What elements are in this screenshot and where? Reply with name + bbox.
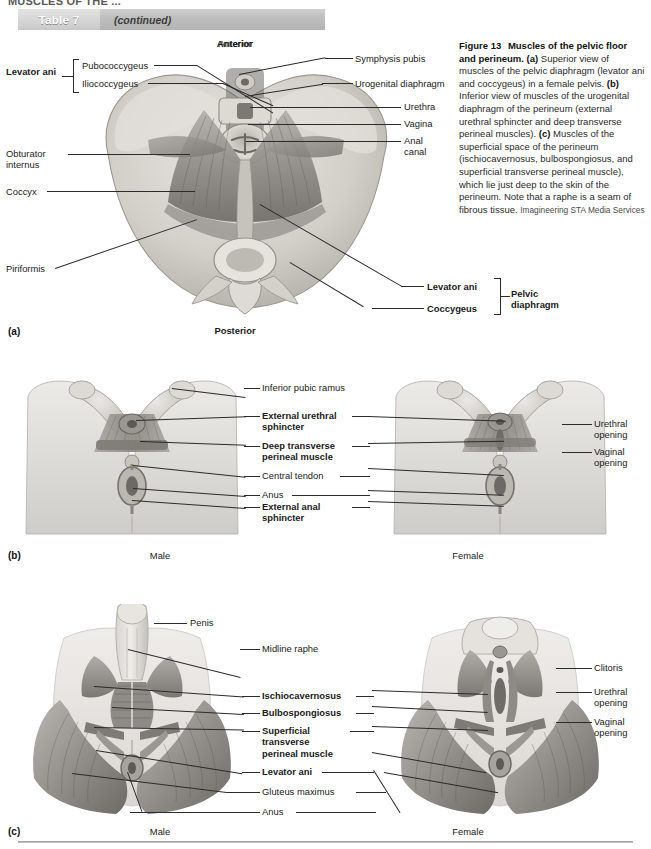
panel-b-female-illustration xyxy=(392,374,608,538)
leader-levator-ani-group xyxy=(62,76,74,77)
label-piriformis: Piriformis xyxy=(6,263,45,274)
leader-dtpm-right xyxy=(352,446,370,447)
leader-levator-ani-pelvic-h xyxy=(401,286,424,287)
label-levator-ani-pelvic: Levator ani xyxy=(427,281,477,292)
leader-anal-canal xyxy=(246,141,401,142)
leader-pubococcygeus-h xyxy=(154,65,197,66)
table-banner-continued: (continued) xyxy=(114,14,171,26)
label-male-c: Male xyxy=(130,826,190,837)
label-inferior-pubic-ramus: Inferior pubic ramus xyxy=(262,382,345,393)
label-gluteus-maximus: Gluteus maximus xyxy=(262,786,334,797)
leader-obturator-internus xyxy=(68,154,190,155)
label-ischiocavernosus: Ischiocavernosus xyxy=(262,690,341,701)
leader-urethral-opening-c xyxy=(556,692,592,693)
label-urogenital-diaphragm: Urogenital diaphragm xyxy=(355,78,445,89)
label-penis: Penis xyxy=(190,617,213,628)
leader-pelvic-diaphragm xyxy=(501,296,510,297)
label-symphysis-pubis: Symphysis pubis xyxy=(355,53,425,64)
leader-levator-ani-c-left xyxy=(242,772,260,773)
label-coccyx: Coccyx xyxy=(6,186,37,197)
leader-anus-c-right xyxy=(296,812,376,813)
figure-caption: Figure 13 Muscles of the pelvic floor an… xyxy=(459,40,645,216)
leader-eus-left xyxy=(244,416,260,417)
panel-letter-b: (b) xyxy=(8,550,21,561)
label-bulbospongiosus: Bulbospongiosus xyxy=(262,707,341,718)
label-urethra: Urethra xyxy=(404,101,435,112)
leader-urethra xyxy=(250,107,401,108)
panel-c-female-illustration xyxy=(392,604,608,816)
leader-bulbospongiosus-left xyxy=(242,713,260,714)
label-pelvic-diaphragm: Pelvic diaphragm xyxy=(511,288,559,311)
table-banner-tab: Table 7 xyxy=(18,9,100,30)
leader-vaginal-opening-c xyxy=(556,722,592,723)
table-banner-tab-label: Table 7 xyxy=(39,14,80,26)
label-anus-c: Anus xyxy=(262,806,283,817)
label-vaginal-opening-b: Vaginal opening xyxy=(594,446,627,469)
leader-gluteus-maximus-left xyxy=(226,792,260,793)
label-vaginal-opening-c: Vaginal opening xyxy=(594,716,627,739)
leader-gluteus-maximus-right xyxy=(356,792,386,793)
leader-urethral-opening-b xyxy=(562,424,592,425)
label-female-b: Female xyxy=(438,550,498,561)
panel-b-male-illustration xyxy=(24,374,240,538)
label-central-tendon: Central tendon xyxy=(262,470,324,481)
leader-central-tendon-right xyxy=(340,476,370,477)
leader-vaginal-opening-b xyxy=(562,452,592,453)
leader-midline-raphe-left xyxy=(240,649,260,650)
leader-clitoris xyxy=(556,668,592,669)
label-iliococcygeus: Iliococcygeus xyxy=(82,78,138,89)
label-coccygeus-pelvic: Coccygeus xyxy=(427,303,477,314)
label-levator-ani-c: Levator ani xyxy=(262,766,312,777)
page-running-head-text: MUSCLES OF THE ... xyxy=(8,0,300,7)
leader-stpm-right xyxy=(350,731,374,732)
caption-part-b-marker: (b) xyxy=(607,78,619,89)
label-urethral-opening-b: Urethral opening xyxy=(594,418,627,441)
leader-central-tendon-left xyxy=(244,476,260,477)
leader-bulbospongiosus-right xyxy=(356,713,374,714)
leader-anus-b-left xyxy=(244,495,260,496)
label-anterior-text: Anterior xyxy=(195,38,275,49)
caption-part-a-marker: (a) xyxy=(527,53,539,64)
page-running-head: MUSCLES OF THE ... xyxy=(0,0,300,8)
label-female-c: Female xyxy=(438,826,498,837)
page-bottom-rule xyxy=(18,841,633,843)
leader-coccygeus-pelvic-h xyxy=(372,308,424,309)
caption-part-c-text: Muscles of the superficial space of the … xyxy=(459,128,633,215)
label-male-b: Male xyxy=(130,550,190,561)
label-anal-canal: Anal canal xyxy=(404,135,426,158)
leader-urogenital-diaphragm-h xyxy=(322,83,353,84)
leader-penis xyxy=(154,623,187,624)
table-banner: Table 7 (continued) xyxy=(18,9,325,30)
figure-number: Figure 13 xyxy=(459,40,501,51)
leader-stpm-left xyxy=(242,731,260,732)
leader-iliococcygeus-h xyxy=(148,83,223,84)
label-urethral-opening-c: Urethral opening xyxy=(594,686,627,709)
leader-vagina xyxy=(248,124,401,125)
leader-coccyx xyxy=(47,191,195,192)
panel-a-illustration xyxy=(92,62,412,324)
label-clitoris: Clitoris xyxy=(594,662,623,673)
label-pubococcygeus: Pubococcygeus xyxy=(82,60,148,71)
bracket-pelvic-diaphragm xyxy=(494,278,501,315)
label-anus-b: Anus xyxy=(262,489,283,500)
leader-symphysis-pubis-h xyxy=(325,58,353,59)
label-deep-transverse-perineal-muscle: Deep transverse perineal muscle xyxy=(262,440,335,463)
label-superficial-transverse-perineal-muscle: Superficial transverse perineal muscle xyxy=(262,725,333,759)
leader-eas-left xyxy=(244,507,260,508)
label-external-anal-sphincter: External anal sphincter xyxy=(262,501,320,524)
leader-inferior-pubic-ramus-left xyxy=(244,388,260,389)
label-midline-raphe: Midline raphe xyxy=(262,643,318,654)
leader-anus-c-left xyxy=(130,812,260,813)
label-posterior: Posterior xyxy=(195,325,275,336)
label-levator-ani-group: Levator ani xyxy=(6,66,56,77)
panel-letter-c: (c) xyxy=(8,826,20,837)
leader-dtpm-left xyxy=(244,446,260,447)
panel-letter-a: (a) xyxy=(8,326,20,337)
label-obturator-internus: Obturator internus xyxy=(6,148,46,171)
leader-ischiocavernosus-right xyxy=(356,696,374,697)
label-vagina: Vagina xyxy=(404,118,433,129)
label-external-urethral-sphincter: External urethral sphincter xyxy=(262,410,337,433)
leader-eas-right xyxy=(352,507,370,508)
leader-ischiocavernosus-left xyxy=(242,696,260,697)
caption-part-c-marker: (c) xyxy=(539,128,551,139)
